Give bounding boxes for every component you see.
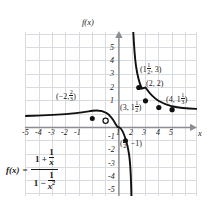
formula-denominator-lead: 1 − [34, 178, 46, 188]
x-tick--4: -4 [35, 129, 42, 137]
y-tick--1: -1 [108, 133, 115, 141]
function-formula: f(x) = 1 + 1 x 1 − 1 x2 [6, 148, 58, 192]
x-tick-3: 3 [142, 129, 146, 137]
x-tick-5: 5 [169, 129, 173, 137]
point-label-3: (3, 112) [120, 100, 141, 114]
point-marker-1half [136, 85, 141, 90]
y-tick--3: -3 [108, 160, 115, 168]
y-tick-1: 1 [110, 97, 114, 105]
formula-denominator: 1 − 1 x2 [31, 169, 58, 192]
formula-lhs: f(x) [6, 165, 20, 175]
y-tick--5: -5 [108, 186, 115, 194]
x-tick-4: 4 [156, 129, 160, 137]
y-tick-3: 3 [110, 70, 114, 78]
point-marker-4 [170, 107, 175, 112]
formula-denominator-fraction: 1 x2 [48, 171, 55, 192]
point-label-neg2-lead: (−2, [56, 92, 69, 101]
y-tick--4: -4 [108, 173, 115, 181]
formula-main-fraction: 1 + 1 x 1 − 1 x2 [31, 148, 58, 192]
x-tick--3: -3 [48, 129, 55, 137]
point-label-4-tail: ) [185, 95, 188, 104]
point-label-1half-lead: (1 [140, 65, 147, 74]
point-label-2: (2, 2) [146, 80, 163, 88]
formula-numerator-lead: 1 + [35, 154, 47, 164]
point-label-1half: (112, 3) [140, 62, 161, 76]
y-axis-label: f(x) [82, 18, 94, 27]
fraction-denominator: x2 [48, 180, 55, 191]
point-label-4-lead: (4, 1 [166, 95, 181, 104]
point-label-3-lead: (3, 1 [120, 103, 135, 112]
x-tick--2: -2 [61, 129, 68, 137]
y-tick--2: -2 [108, 146, 115, 154]
fraction-denominator: x [49, 157, 54, 167]
point-label-neg2-close: ) [73, 92, 76, 101]
x-axis-label: x [198, 129, 202, 138]
point-label-half-tail: , −1) [127, 139, 142, 148]
point-label-neg2: (−2,23) [56, 89, 76, 103]
point-label-1half-tail: , 3) [151, 65, 162, 74]
x-tick--1: -1 [74, 129, 81, 137]
formula-equals: = [23, 165, 28, 175]
fraction-denominator-exponent: 2 [52, 180, 55, 186]
point-label-4: (4, 113) [166, 92, 187, 106]
point-marker-3 [156, 105, 161, 110]
formula-numerator-fraction: 1 x [49, 148, 54, 168]
formula-numerator: 1 + 1 x [31, 148, 58, 169]
point-marker-neg2 [90, 116, 95, 121]
fraction-numerator: 1 [49, 148, 54, 157]
graph-figure: f(x) x -5 -4 -3 -2 -1 1 2 3 4 5 5 4 3 2 … [0, 0, 207, 209]
fraction-numerator: 1 [48, 171, 55, 180]
point-label-half: (12, −1) [120, 136, 142, 150]
point-label-3-tail: ) [139, 103, 142, 112]
y-tick-5: 5 [110, 44, 114, 52]
y-tick-2: 2 [110, 84, 114, 92]
point-marker-2 [143, 98, 148, 103]
x-tick--5: -5 [22, 129, 29, 137]
y-tick-4: 4 [110, 57, 114, 65]
point-marker-hole [103, 118, 108, 123]
